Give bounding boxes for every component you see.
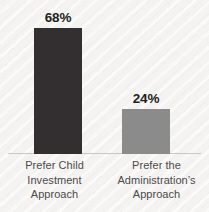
bar-group-child-investment: 68% [34, 28, 82, 154]
bar-value-label: 24% [112, 91, 180, 106]
category-label-line: Administration’s [104, 173, 209, 188]
plot-area: 68% 24% [0, 0, 209, 155]
category-label-child-investment: Prefer Child Investment Approach [5, 158, 104, 202]
category-label-administration: Prefer the Administration’s Approach [104, 158, 209, 202]
bar-value-label: 68% [24, 10, 92, 25]
bar-group-administration: 24% [122, 109, 170, 154]
category-labels: Prefer Child Investment Approach Prefer … [0, 158, 209, 212]
bar-administration [122, 109, 170, 154]
category-label-line: Prefer the [104, 158, 209, 173]
bar-child-investment [34, 28, 82, 154]
bar-chart: 68% 24% Prefer Child Investment Approach… [0, 0, 209, 212]
category-label-line: Approach [104, 187, 209, 202]
category-label-line: Prefer Child [5, 158, 104, 173]
category-label-line: Investment [5, 173, 104, 188]
category-label-line: Approach [5, 187, 104, 202]
